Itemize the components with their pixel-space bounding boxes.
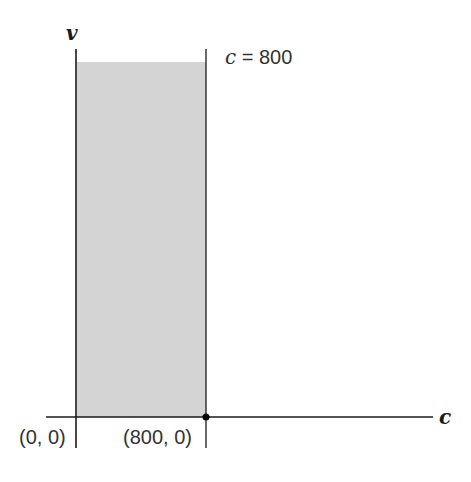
shaded-feasible-region xyxy=(77,62,206,417)
feasible-region-diagram: v c c = 800 (0, 0) (800, 0) xyxy=(0,0,471,482)
origin-label: (0, 0) xyxy=(19,426,66,448)
boundary-label: c = 800 xyxy=(225,45,292,69)
vertex-point-800-0 xyxy=(203,414,210,421)
c-axis-label: c xyxy=(439,405,451,429)
vertex-800-0-label: (800, 0) xyxy=(123,426,192,448)
v-axis-label: v xyxy=(66,21,78,45)
